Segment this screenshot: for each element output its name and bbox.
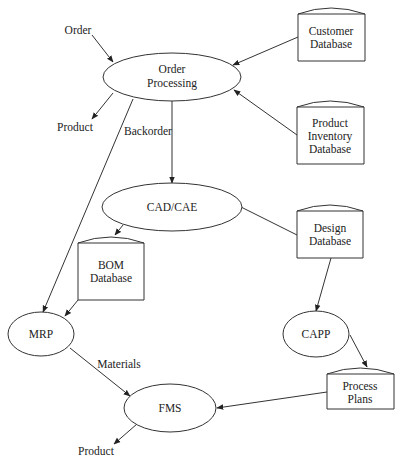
datastore-bom-database[interactable]: BOM Database <box>78 237 144 300</box>
edge-capp-to-process-plans <box>350 335 367 367</box>
datastore-customer-database[interactable]: Customer Database <box>298 8 365 61</box>
terminal-product-output-bottom: Product <box>78 445 115 457</box>
process-label-line: Processing <box>147 77 197 90</box>
datastore-label-line: Database <box>310 38 352 50</box>
datastore-label-line: Database <box>90 272 132 284</box>
edge-customer-db-to-order-processing <box>233 37 298 65</box>
terminal-product-output-top: Product <box>57 121 94 133</box>
data-flow-diagram: Order Processing CAD/CAE MRP CAPP FMS Cu… <box>0 0 403 465</box>
process-label-line: CAPP <box>302 328 331 340</box>
datastore-label-line: Database <box>309 235 351 247</box>
datastore-label-line: Design <box>314 222 347 235</box>
datastore-label-line: BOM <box>98 259 124 271</box>
edge-order-processing-to-product <box>92 93 113 119</box>
edge-product-inventory-db-to-order-processing <box>234 90 297 135</box>
edge-cad-cae-to-bom-db <box>115 225 123 235</box>
process-label-line: FMS <box>158 402 181 414</box>
datastore-label-line: Process <box>342 380 378 392</box>
process-label-line: Order <box>159 63 186 75</box>
datastore-label-line: Customer <box>309 25 354 37</box>
diagram-canvas: Order Processing CAD/CAE MRP CAPP FMS Cu… <box>0 0 403 465</box>
datastore-design-database[interactable]: Design Database <box>297 205 363 258</box>
edge-process-plans-to-fms <box>217 392 327 408</box>
edge-order-to-order-processing <box>92 35 113 62</box>
datastore-label-line: Product <box>312 117 349 129</box>
edge-label-backorder: Backorder <box>124 125 172 137</box>
datastore-label-line: Plans <box>348 393 373 405</box>
edge-mrp-to-fms <box>70 348 130 396</box>
edge-fms-to-product <box>114 424 137 444</box>
datastore-product-inventory-database[interactable]: Product Inventory Database <box>297 101 364 164</box>
edge-bom-db-to-mrp <box>65 300 78 316</box>
datastore-process-plans[interactable]: Process Plans <box>327 368 394 409</box>
terminal-order-input: Order <box>65 24 92 36</box>
process-capp[interactable]: CAPP <box>283 311 349 357</box>
process-fms[interactable]: FMS <box>124 384 216 432</box>
process-mrp[interactable]: MRP <box>8 312 74 356</box>
process-order-processing[interactable]: Order Processing <box>103 53 241 101</box>
edge-design-db-to-capp <box>316 258 331 311</box>
edge-cad-cae-to-design-db <box>241 207 297 235</box>
datastore-label-line: Inventory <box>308 130 353 143</box>
datastore-label-line: Database <box>309 143 351 155</box>
process-label-line: CAD/CAE <box>147 201 197 213</box>
process-cad-cae[interactable]: CAD/CAE <box>102 183 242 231</box>
edge-label-materials: Materials <box>97 358 141 370</box>
process-label-line: MRP <box>29 328 53 340</box>
